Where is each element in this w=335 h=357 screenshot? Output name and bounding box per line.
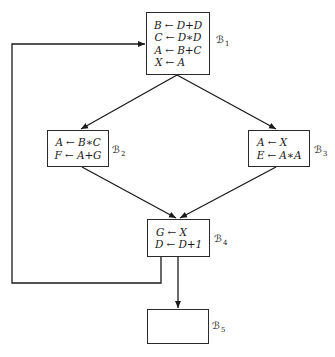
edge-b1-b2 [81,75,177,129]
statement: A ← B+C [155,44,202,57]
block-b4: G ← X D ← D+1 [147,219,210,257]
edge-b1-b3 [177,75,276,129]
statement: G ← X [156,226,187,239]
statement: D ← D+1 [155,238,202,251]
block-label-b4: ℬ4 [214,233,227,247]
block-label-b3: ℬ3 [314,144,327,158]
block-b5 [147,309,209,344]
edge-b3-b4 [180,167,276,218]
statement: C ← D∗D [155,31,202,44]
statement: B ← D+D [154,19,202,32]
block-label-b1: ℬ1 [216,34,229,48]
statement: X ← A [155,56,185,69]
block-label-b2: ℬ2 [112,144,125,158]
edge-b2-b4 [82,167,176,218]
block-label-b5: ℬ5 [212,320,225,334]
statement: E ← A∗A [257,149,302,162]
statement: A ← X [257,136,287,149]
block-b2: A ← B∗C F ← A+G [47,130,109,167]
block-b1: B ← D+D C ← D∗D A ← B+C X ← A [146,12,210,75]
statement: F ← A+G [55,149,102,162]
block-b3: A ← X E ← A∗A [248,130,310,167]
statement: A ← B∗C [55,136,100,149]
